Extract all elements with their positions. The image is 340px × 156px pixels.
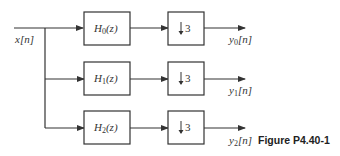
figure-caption: Figure P4.40-1 xyxy=(258,134,330,146)
downsample-factor-0: 3 xyxy=(185,22,191,34)
filter-h0-label: H0(z) xyxy=(93,22,118,36)
filter-h1-label: H1(z) xyxy=(93,72,118,86)
row-1: H1(z) 3 y1[n] xyxy=(84,62,252,98)
row-2: H2(z) 3 y2[n] xyxy=(84,111,252,148)
downsample-factor-2: 3 xyxy=(185,121,191,133)
output-label-0: y0[n] xyxy=(228,33,252,47)
filter-bank-diagram: x[n] H0(z) 3 y0[n] H1(z) 3 y1[n] H2(z) xyxy=(0,0,340,156)
downsample-factor-1: 3 xyxy=(185,72,191,84)
filter-h2-label: H2(z) xyxy=(93,121,118,135)
row-0: H0(z) 3 y0[n] xyxy=(84,12,252,47)
output-label-1: y1[n] xyxy=(228,84,252,98)
output-label-2: y2[n] xyxy=(228,134,252,148)
input-label: x[n] xyxy=(14,33,34,45)
